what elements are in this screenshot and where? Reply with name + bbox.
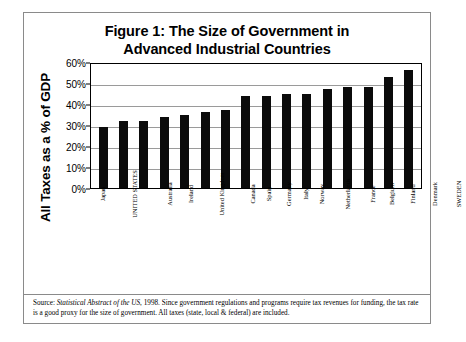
x-tick-label-slot: France — [360, 190, 377, 246]
x-tick-label: Spain — [265, 187, 272, 202]
bar — [404, 70, 413, 188]
y-axis-tick-labels: 60%50%40%30%20%10%0% — [56, 63, 90, 189]
bar — [119, 121, 128, 188]
x-tick-label-slot: Germany — [273, 190, 297, 246]
bar-slot — [317, 64, 337, 188]
x-axis-tick-labels: JapanUNITED STATESAustraliaIrelandUnited… — [90, 190, 422, 246]
bar — [241, 96, 250, 188]
x-tick-label: Netherlands — [344, 179, 351, 210]
bar-slot — [236, 64, 256, 188]
y-tick-label: 60% — [66, 58, 86, 69]
x-tick-label-slot: Norway — [308, 190, 329, 246]
chart-body: All Taxes as a % of GDP 60%50%40%30%20%1… — [28, 63, 424, 294]
x-tick-label-slot: Canada — [239, 190, 258, 246]
bar — [282, 94, 291, 189]
bar — [262, 96, 271, 188]
bar-slot — [154, 64, 174, 188]
bar-slot — [297, 64, 317, 188]
x-tick-label-slot: United Kingdom — [196, 190, 239, 246]
bar-slot — [256, 64, 276, 188]
x-tick-label: Japan — [99, 187, 106, 202]
x-tick-label-slot: Australia — [154, 190, 177, 246]
plot-area — [90, 63, 422, 189]
chart-title-line-1: Figure 1: The Size of Government in — [42, 22, 412, 40]
x-tick-label-slot: Italy — [296, 190, 308, 246]
x-tick-label: Canada — [248, 184, 255, 203]
bar — [302, 94, 311, 189]
x-tick-label: France — [368, 185, 375, 202]
bar — [384, 77, 393, 188]
x-tick-label-slot: Denmark — [419, 190, 443, 246]
bar-slot — [175, 64, 195, 188]
y-tick-label: 40% — [66, 100, 86, 111]
y-tick-label: 0% — [72, 184, 86, 195]
x-tick-label-slot: Spain — [258, 190, 273, 246]
x-tick-label: Denmark — [430, 182, 437, 206]
x-tick-label-slot: Japan — [92, 190, 107, 246]
bar-slot — [338, 64, 358, 188]
bar — [180, 115, 189, 189]
x-tick-label: Germany — [284, 182, 291, 206]
x-tick-label: Norway — [318, 184, 325, 205]
x-tick-label: Australia — [166, 182, 173, 205]
x-tick-label-slot: Netherlands — [329, 190, 360, 246]
source-prefix: Source: — [33, 299, 57, 307]
bar — [343, 87, 352, 188]
x-tick-label: SWEDEN — [456, 181, 463, 208]
bar — [99, 127, 108, 188]
bar-slot — [195, 64, 215, 188]
bar-slot — [93, 64, 113, 188]
source-title-italic: Statistical Abstract of the US — [57, 299, 140, 307]
x-tick-label: Belgium — [388, 183, 395, 205]
y-tick-label: 30% — [66, 121, 86, 132]
bar — [201, 112, 210, 188]
bar — [364, 87, 373, 188]
bar-slot — [378, 64, 398, 188]
x-tick-label: Ireland — [187, 185, 194, 203]
bar — [323, 89, 332, 188]
y-axis-title-label: All Taxes as a % of GDP — [38, 73, 53, 222]
x-tick-label-slot: SWEDEN — [442, 190, 466, 246]
bar — [160, 117, 169, 188]
bar — [139, 121, 148, 188]
x-tick-label-slot: Finland — [399, 190, 419, 246]
chart-title-line-2: Advanced Industrial Countries — [42, 40, 412, 58]
x-tick-label: Finland — [409, 184, 416, 204]
chart-title: Figure 1: The Size of Government in Adva… — [24, 13, 430, 58]
source-note: Source: Statistical Abstract of the US, … — [24, 295, 430, 323]
bar-slot — [358, 64, 378, 188]
bar-series — [91, 64, 421, 188]
x-tick-label-slot: Ireland — [178, 190, 196, 246]
x-tick-label: Italy — [302, 188, 309, 200]
bar-slot — [215, 64, 235, 188]
y-tick-label: 20% — [66, 142, 86, 153]
y-axis-title: All Taxes as a % of GDP — [34, 63, 56, 231]
bar-slot — [399, 64, 419, 188]
x-tick-label-slot: UNITED STATES — [107, 190, 155, 246]
figure-container: Figure 1: The Size of Government in Adva… — [23, 12, 431, 324]
y-tick-label: 50% — [66, 79, 86, 90]
y-tick-label: 10% — [66, 163, 86, 174]
x-tick-label-slot: Belgium — [377, 190, 399, 246]
x-tick-label: UNITED STATES — [130, 170, 137, 218]
bar-slot — [276, 64, 296, 188]
x-tick-label: United Kingdom — [217, 172, 224, 215]
